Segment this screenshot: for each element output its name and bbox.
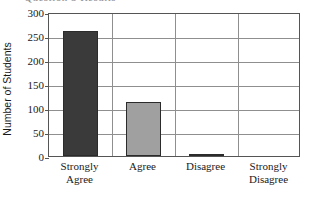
x-category-label: StronglyDisagree [237, 160, 300, 186]
x-category-label-line: Agree [48, 173, 111, 186]
x-category-label-line: Strongly [237, 160, 300, 173]
category-separator [175, 14, 176, 156]
x-category-label: Agree [111, 160, 174, 173]
x-category-label-line: Disagree [237, 173, 300, 186]
plot-area [48, 13, 300, 157]
chart-title-cropped: Question 5 Results [24, 0, 184, 3]
x-axis-category-labels: StronglyAgreeAgreeDisagreeStronglyDisagr… [48, 160, 300, 196]
y-tick-label: 250 [16, 32, 44, 43]
x-category-label-line: Disagree [174, 160, 237, 173]
y-tick-mark [45, 14, 49, 15]
bar [63, 31, 98, 156]
y-axis-tick-labels: 300250200150100500 [14, 0, 44, 197]
y-tick-label: 150 [16, 80, 44, 91]
y-tick-mark [45, 110, 49, 111]
y-tick-label: 200 [16, 56, 44, 67]
y-axis-title: Number of Students [0, 24, 14, 154]
category-separator [112, 14, 113, 156]
y-tick-label: 50 [16, 128, 44, 139]
category-separator [238, 14, 239, 156]
x-category-label-line: Strongly [48, 160, 111, 173]
y-tick-mark [45, 134, 49, 135]
y-tick-mark [45, 86, 49, 87]
bar [126, 102, 161, 156]
x-category-label-line: Agree [111, 160, 174, 173]
bar [189, 154, 224, 156]
y-tick-label: 300 [16, 8, 44, 19]
x-category-label: Disagree [174, 160, 237, 173]
y-tick-mark [45, 158, 49, 159]
y-tick-mark [45, 38, 49, 39]
y-tick-mark [45, 62, 49, 63]
y-tick-label: 0 [16, 152, 44, 163]
bar-chart-figure: Question 5 Results Number of Students 30… [0, 0, 312, 197]
y-axis-title-text: Number of Students [1, 42, 13, 135]
y-tick-label: 100 [16, 104, 44, 115]
x-category-label: StronglyAgree [48, 160, 111, 186]
